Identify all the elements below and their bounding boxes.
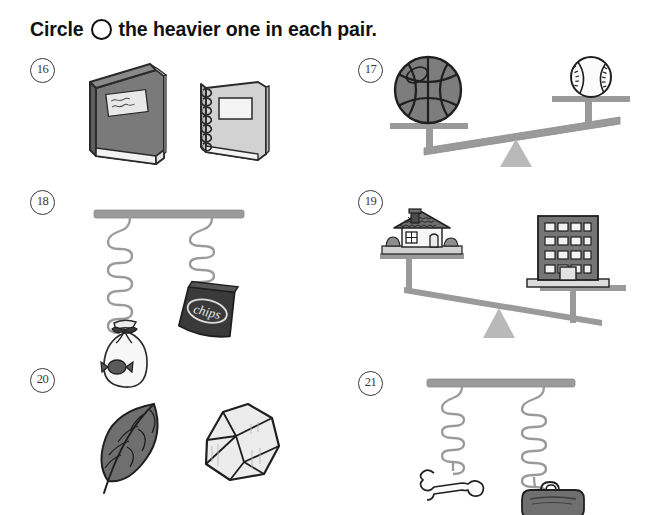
fulcrum-icon (500, 139, 532, 167)
house[interactable] (382, 209, 462, 254)
left-spring-short (442, 387, 464, 474)
question-number-16: 16 (30, 58, 55, 83)
question-number-18: 18 (30, 190, 55, 215)
instruction-text-post: the heavier one in each pair. (119, 18, 377, 41)
support-bar (94, 210, 244, 218)
item-17-figure (382, 55, 632, 175)
item-21-figure (420, 375, 650, 515)
fulcrum-icon (483, 308, 515, 338)
left-spring-long (108, 218, 132, 333)
instruction-text-pre: Circle (30, 18, 84, 41)
candy-bag[interactable] (101, 320, 147, 387)
right-spring-long (522, 387, 546, 499)
rock[interactable] (206, 404, 279, 480)
item-20-figure (76, 384, 291, 504)
question-number-21: 21 (358, 371, 383, 396)
item-18-figure: chips (72, 198, 292, 358)
item-19-figure (380, 210, 630, 340)
apartment-building[interactable] (527, 216, 609, 287)
chip-bag[interactable]: chips (178, 275, 242, 341)
baseball[interactable] (571, 57, 611, 97)
book-label (106, 90, 148, 117)
hardcover-book[interactable] (90, 64, 166, 164)
basketball[interactable] (395, 57, 461, 123)
item-16-figure (78, 60, 278, 180)
leaf[interactable] (101, 404, 157, 493)
question-number-20: 20 (30, 368, 55, 393)
page-title: Circle the heavier one in each pair. (30, 18, 377, 41)
bone[interactable] (421, 470, 484, 500)
spiral-notebook[interactable] (201, 82, 269, 160)
question-number-17: 17 (358, 58, 383, 83)
support-bar (427, 379, 575, 387)
building-door (560, 267, 576, 280)
circle-outline-icon (91, 19, 112, 40)
